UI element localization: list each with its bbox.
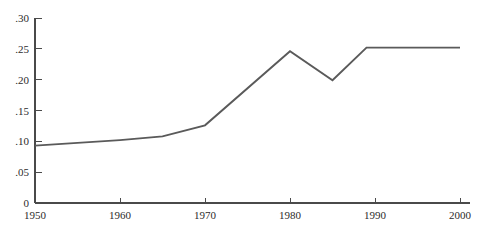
x-tick-label: 1980 [279,209,302,221]
y-tick-label: .05 [15,166,29,178]
data-series-line [35,48,460,146]
line-chart-figure: .30.25.20.15.10.050 19501960197019801990… [0,0,482,240]
x-tick-label: 1990 [364,209,387,221]
x-tick-label: 1960 [109,209,132,221]
y-tick-label: .25 [15,43,29,55]
y-axis: .30.25.20.15.10.050 [15,12,42,209]
y-tick-label: .15 [15,105,29,117]
y-tick-label: 0 [24,197,30,209]
x-tick-label: 2000 [449,209,472,221]
x-axis: 195019601970198019902000 [24,198,472,221]
y-tick-label: .20 [15,74,29,86]
chart-canvas: .30.25.20.15.10.050 19501960197019801990… [0,0,482,240]
x-tick-label: 1970 [194,209,217,221]
y-tick-label: .10 [15,135,29,147]
data-series-group [35,48,460,146]
x-tick-label: 1950 [24,209,47,221]
y-tick-label: .30 [15,12,29,24]
